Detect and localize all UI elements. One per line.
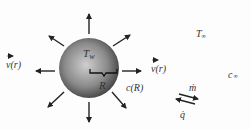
velocity-left-label: v(r): [6, 56, 22, 71]
diagram-canvas: Tw R v(r) v(r) c(R) T∞ c∞ ṁ q̇: [0, 0, 251, 130]
radius-label: R: [98, 79, 106, 91]
arrow-downleft-icon: [48, 92, 64, 107]
svg-text:v(r): v(r): [151, 63, 167, 75]
far-temp-label: T∞: [196, 28, 207, 39]
mass-flux-arrow-icon: [179, 94, 198, 99]
svg-text:v(r): v(r): [6, 59, 22, 71]
heat-flux-label: q̇: [180, 109, 185, 120]
flux-arrows: [176, 94, 198, 104]
mass-flux-label: ṁ: [189, 82, 196, 93]
far-concentration-label: c∞: [228, 69, 238, 80]
heat-flux-arrow-icon: [176, 99, 195, 104]
diagram-svg: Tw R v(r) v(r) c(R) T∞ c∞ ṁ q̇: [0, 0, 251, 130]
surface-concentration-label: c(R): [126, 82, 144, 94]
velocity-right-label: v(r): [151, 60, 167, 75]
arrow-upleft-icon: [49, 36, 64, 46]
arrow-downright-icon: [112, 92, 126, 108]
arrow-upright-icon: [113, 35, 130, 46]
